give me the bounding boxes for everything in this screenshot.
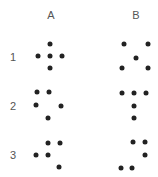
dot	[134, 56, 139, 61]
dot	[132, 91, 137, 96]
column-label-b: B	[132, 10, 139, 21]
dot	[46, 141, 51, 146]
dot	[36, 54, 41, 59]
dot	[34, 103, 39, 108]
dot	[132, 104, 137, 109]
dot	[57, 165, 62, 170]
dot	[34, 153, 39, 158]
dot	[119, 166, 124, 171]
dot	[146, 42, 151, 47]
dot	[35, 90, 40, 95]
row-label-1: 1	[10, 52, 16, 63]
dot	[143, 140, 148, 145]
dot	[47, 90, 52, 95]
column-label-a: A	[47, 10, 54, 21]
dot	[48, 66, 53, 71]
dot	[46, 153, 51, 158]
dot	[131, 140, 136, 145]
row-label-2: 2	[10, 101, 16, 112]
dot	[60, 54, 65, 59]
dot	[59, 104, 64, 109]
dot	[120, 91, 125, 96]
dot	[48, 42, 53, 47]
row-label-3: 3	[10, 150, 16, 161]
dot	[144, 91, 149, 96]
dot	[146, 66, 151, 71]
dot	[46, 116, 51, 121]
dot	[120, 66, 125, 71]
dot	[143, 153, 148, 158]
dot	[130, 166, 135, 171]
dot	[122, 42, 127, 47]
dot	[48, 54, 53, 59]
dot	[132, 116, 137, 121]
dot	[58, 141, 63, 146]
